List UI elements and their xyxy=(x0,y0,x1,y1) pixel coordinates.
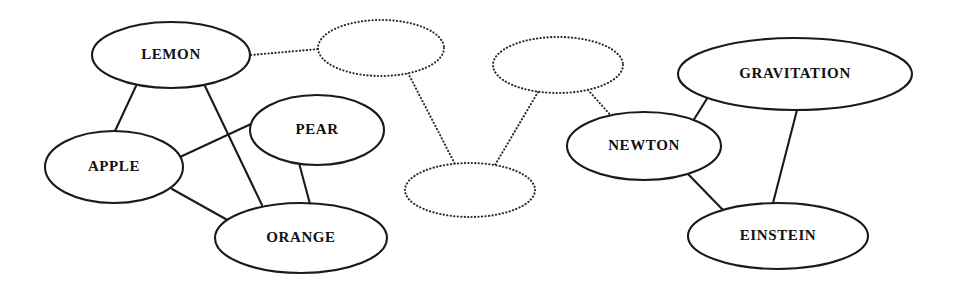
node-label-gravitation: GRAVITATION xyxy=(739,65,851,81)
graph-diagram-canvas: LEMONAPPLEPEARORANGENEWTONGRAVITATIONEIN… xyxy=(0,0,957,291)
node-label-einstein: EINSTEIN xyxy=(740,227,817,243)
node-apple[interactable]: APPLE xyxy=(45,131,183,203)
node-lemon[interactable]: LEMON xyxy=(92,22,250,88)
node-newton[interactable]: NEWTON xyxy=(567,112,721,180)
node-label-lemon: LEMON xyxy=(141,46,201,62)
graph-svg: LEMONAPPLEPEARORANGENEWTONGRAVITATIONEIN… xyxy=(0,0,957,291)
node-gravitation[interactable]: GRAVITATION xyxy=(678,38,912,110)
node-einstein[interactable]: EINSTEIN xyxy=(688,203,868,269)
node-unknown2[interactable] xyxy=(493,37,623,93)
node-unknown1[interactable] xyxy=(318,20,444,76)
node-shape-unknown3[interactable] xyxy=(405,163,535,217)
node-orange[interactable]: ORANGE xyxy=(215,203,387,273)
node-label-orange: ORANGE xyxy=(266,229,335,245)
node-label-apple: APPLE xyxy=(88,158,140,174)
node-shape-unknown1[interactable] xyxy=(318,20,444,76)
node-pear[interactable]: PEAR xyxy=(250,95,384,165)
node-unknown3[interactable] xyxy=(405,163,535,217)
node-shape-unknown2[interactable] xyxy=(493,37,623,93)
node-label-pear: PEAR xyxy=(295,121,338,137)
node-label-newton: NEWTON xyxy=(608,137,680,153)
